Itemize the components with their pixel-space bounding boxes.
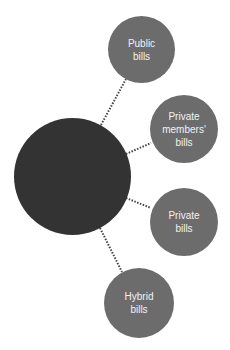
- hub-circle: [14, 118, 131, 235]
- node-private-bills: Private bills: [150, 188, 218, 256]
- bill-types-diagram: Public bills Private members' bills Priv…: [0, 0, 230, 350]
- node-label: Hybrid bills: [125, 290, 154, 316]
- connector-private: [126, 198, 151, 208]
- connector-hybrid: [100, 228, 122, 272]
- node-label: Private bills: [168, 209, 199, 235]
- connector-private-members: [126, 143, 151, 154]
- node-private-members-bills: Private members' bills: [150, 95, 218, 163]
- node-hybrid-bills: Hybrid bills: [104, 268, 174, 338]
- node-label: Public bills: [128, 37, 155, 63]
- connector-public: [101, 79, 126, 125]
- node-public-bills: Public bills: [108, 16, 175, 83]
- node-label: Private members' bills: [162, 110, 206, 149]
